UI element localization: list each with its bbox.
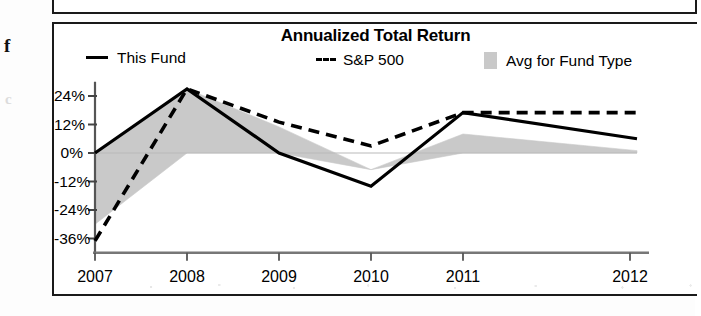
chart-svg — [54, 24, 699, 298]
margin-text-fragment: f — [4, 36, 10, 55]
y-axis-tick-label: 24% — [54, 88, 83, 104]
y-axis-tick-label: -24% — [54, 202, 83, 218]
plot-area — [54, 24, 699, 298]
annualized-total-return-panel: Annualized Total Return This Fund S&P 50… — [52, 22, 697, 296]
y-axis-tick-label: 12% — [54, 117, 83, 133]
y-axis-tick-label: 0% — [54, 145, 83, 161]
margin-text-fragment-faint: c — [5, 92, 12, 107]
adjacent-panel-bottom-edge — [52, 0, 697, 14]
y-axis-tick-label: -12% — [54, 174, 83, 190]
scan-artifact — [114, 282, 701, 292]
y-axis-tick-label: -36% — [54, 231, 83, 247]
